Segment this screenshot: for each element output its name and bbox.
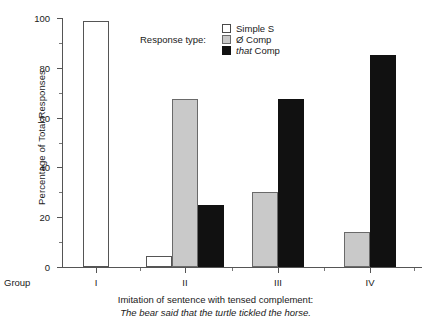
bar-group-iv-zero	[344, 232, 370, 267]
x-tick-minor	[140, 268, 141, 271]
y-tick-minor	[59, 143, 62, 144]
legend-entries: Simple SØ Compthat Comp	[222, 23, 292, 56]
y-tick-major: 100	[57, 18, 62, 19]
legend-entry-that: that Comp	[222, 45, 292, 56]
y-tick-label: 0	[45, 262, 50, 273]
bar-group-ii-that	[198, 205, 224, 267]
y-tick-label: 40	[39, 162, 50, 173]
bar-group-i-simple	[83, 21, 109, 268]
y-tick-label: 20	[39, 212, 50, 223]
legend-entry-simple: Simple S	[222, 23, 274, 34]
legend-swatch-zero	[222, 35, 231, 44]
bar-group-ii-simple	[146, 256, 172, 267]
legend: Response type: Simple SØ Compthat Comp	[140, 23, 292, 56]
legend-swatch-that	[222, 46, 231, 55]
caption-line-1: Imitation of sentence with tensed comple…	[0, 293, 431, 306]
caption-line-2: The bear said that the turtle tickled th…	[0, 306, 431, 319]
x-tick	[278, 268, 279, 273]
y-tick-minor	[59, 93, 62, 94]
x-tick-label-ii: II	[182, 277, 187, 288]
y-tick-minor	[59, 43, 62, 44]
legend-label-simple: Simple S	[236, 23, 274, 34]
x-tick	[370, 268, 371, 273]
x-tick-label-iii: III	[274, 277, 282, 288]
y-tick-major: 80	[57, 68, 62, 69]
x-tick-minor	[414, 268, 415, 271]
y-tick-label: 60	[39, 112, 50, 123]
x-axis-line	[62, 267, 422, 268]
legend-title: Response type:	[140, 34, 206, 45]
y-tick-label: 80	[39, 62, 50, 73]
bar-group-iii-zero	[252, 192, 278, 267]
legend-label-that: that Comp	[236, 45, 280, 56]
bar-group-iv-that	[370, 55, 396, 267]
y-tick-major: 0	[57, 267, 62, 268]
figure-caption: Imitation of sentence with tensed comple…	[0, 293, 431, 319]
group-axis-word: Group	[4, 277, 30, 288]
y-tick-major: 60	[57, 118, 62, 119]
x-tick	[96, 268, 97, 273]
x-tick-label-iv: IV	[366, 277, 375, 288]
x-tick-minor	[324, 268, 325, 271]
x-tick-label-i: I	[95, 277, 98, 288]
y-tick-minor	[59, 242, 62, 243]
y-tick-major: 40	[57, 167, 62, 168]
bar-chart-figure: Percentage of Total Responses 0204060801…	[0, 0, 431, 329]
y-tick-label: 100	[34, 13, 50, 24]
legend-entry-zero: Ø Comp	[222, 34, 274, 45]
bar-group-ii-zero	[172, 99, 198, 267]
legend-label-zero: Ø Comp	[236, 34, 271, 45]
x-tick	[185, 268, 186, 273]
bar-group-iii-that	[278, 99, 304, 267]
legend-swatch-simple	[222, 24, 231, 33]
y-axis-line	[62, 18, 63, 267]
y-tick-minor	[59, 192, 62, 193]
y-tick-major: 20	[57, 217, 62, 218]
x-tick-minor	[232, 268, 233, 271]
